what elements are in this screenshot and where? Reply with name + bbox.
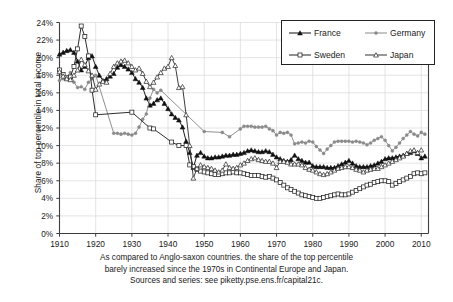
marker-triangle-open xyxy=(144,79,149,83)
marker-dot-filled xyxy=(94,74,97,77)
marker-dot-filled xyxy=(134,132,137,135)
marker-dot-filled xyxy=(228,135,231,138)
marker-dot-filled xyxy=(387,144,390,147)
chart-caption: As compared to Anglo-saxon countries. th… xyxy=(0,252,453,287)
marker-dot-filled xyxy=(87,81,90,84)
marker-dot-filled xyxy=(246,125,249,128)
marker-dot-filled xyxy=(116,132,119,135)
marker-dot-filled xyxy=(242,125,245,128)
legend-entry-japan[interactable]: Japan xyxy=(364,44,413,66)
marker-triangle-open xyxy=(137,66,142,70)
marker-dot-filled xyxy=(337,140,340,143)
marker-square-open xyxy=(86,54,90,58)
marker-dot-filled xyxy=(297,141,300,144)
marker-triangle-open xyxy=(173,63,178,67)
marker-triangle-filled xyxy=(422,154,427,158)
legend-marker-triangle-filled-icon xyxy=(288,26,312,40)
marker-dot-filled xyxy=(333,141,336,144)
marker-dot-filled xyxy=(156,91,159,94)
marker-dot-filled xyxy=(347,140,350,143)
chart-legend: FranceGermanySwedenJapan xyxy=(281,20,435,65)
marker-dot-filled xyxy=(293,142,296,145)
marker-dot-filled xyxy=(374,31,377,34)
legend-marker-triangle-open-icon xyxy=(364,48,388,62)
marker-square-open xyxy=(79,24,83,28)
marker-dot-filled xyxy=(203,130,206,133)
marker-dot-filled xyxy=(148,97,151,100)
caption-line-3: Sources and series: see piketty.pse.ens.… xyxy=(0,275,453,287)
marker-triangle-open xyxy=(122,58,127,62)
legend-entry-sweden[interactable]: Sweden xyxy=(288,44,345,66)
marker-dot-filled xyxy=(130,133,133,136)
marker-dot-filled xyxy=(380,135,383,138)
marker-dot-filled xyxy=(112,132,115,135)
marker-triangle-filled xyxy=(144,96,149,100)
marker-dot-filled xyxy=(391,149,394,152)
marker-triangle-open xyxy=(224,162,229,166)
marker-triangle-filled xyxy=(158,96,163,100)
marker-dot-filled xyxy=(304,141,307,144)
caption-line-1: As compared to Anglo-saxon countries. th… xyxy=(0,252,453,264)
marker-dot-filled xyxy=(282,132,285,135)
marker-dot-filled xyxy=(221,131,224,134)
legend-entry-germany[interactable]: Germany xyxy=(364,22,425,44)
marker-dot-filled xyxy=(257,126,260,129)
marker-square-open xyxy=(423,171,427,175)
marker-triangle-filled xyxy=(292,153,297,157)
marker-dot-filled xyxy=(344,140,347,143)
marker-triangle-filled xyxy=(249,148,254,152)
marker-triangle-filled xyxy=(198,150,203,154)
marker-dot-filled xyxy=(355,140,358,143)
marker-dot-filled xyxy=(279,131,282,134)
marker-triangle-open xyxy=(252,156,257,160)
marker-triangle-open xyxy=(419,148,424,152)
marker-dot-filled xyxy=(127,133,130,136)
marker-dot-filled xyxy=(420,131,423,134)
marker-dot-filled xyxy=(58,79,61,82)
marker-dot-filled xyxy=(239,127,242,130)
marker-dot-filled xyxy=(275,133,278,136)
marker-dot-filled xyxy=(250,125,253,128)
marker-dot-filled xyxy=(271,129,274,132)
marker-dot-filled xyxy=(315,145,318,148)
marker-dot-filled xyxy=(119,133,122,136)
marker-dot-filled xyxy=(268,127,271,130)
marker-dot-filled xyxy=(76,86,79,89)
marker-triangle-open xyxy=(220,168,225,172)
marker-triangle-filled xyxy=(93,64,98,68)
marker-triangle-open xyxy=(191,176,196,180)
marker-dot-filled xyxy=(394,146,397,149)
marker-square-open xyxy=(94,113,98,117)
marker-square-open xyxy=(72,64,76,68)
marker-square-open xyxy=(83,35,87,39)
marker-dot-filled xyxy=(409,130,412,133)
marker-square-open xyxy=(298,53,302,57)
marker-dot-filled xyxy=(159,89,162,92)
legend-label: France xyxy=(312,28,341,38)
marker-dot-filled xyxy=(358,141,361,144)
marker-dot-filled xyxy=(286,131,289,134)
marker-triangle-filled xyxy=(263,149,268,153)
marker-dot-filled xyxy=(340,140,343,143)
marker-dot-filled xyxy=(376,137,379,140)
marker-square-open xyxy=(130,110,134,114)
marker-dot-filled xyxy=(300,141,303,144)
marker-triangle-open xyxy=(412,148,417,152)
marker-triangle-filled xyxy=(180,125,185,129)
marker-dot-filled xyxy=(329,144,332,147)
marker-dot-filled xyxy=(289,133,292,136)
marker-dot-filled xyxy=(145,112,148,115)
marker-dot-filled xyxy=(365,143,368,146)
marker-triangle-filled xyxy=(133,76,138,80)
legend-entry-france[interactable]: France xyxy=(288,22,341,44)
marker-dot-filled xyxy=(402,137,405,140)
marker-triangle-open xyxy=(180,84,185,88)
chart-figure: Share of top percentile in total income … xyxy=(0,0,453,302)
marker-square-open xyxy=(170,140,174,144)
legend-marker-dot-filled-icon xyxy=(364,26,388,40)
marker-triangle-open xyxy=(166,64,171,68)
legend-label: Sweden xyxy=(312,50,345,60)
marker-triangle-open xyxy=(108,71,113,75)
caption-line-2: barely increased since the 1970s in Cont… xyxy=(0,264,453,276)
marker-dot-filled xyxy=(362,141,365,144)
